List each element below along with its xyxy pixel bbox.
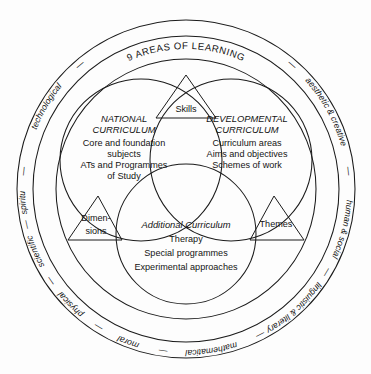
ring-area-scientific: scientific: [24, 234, 46, 270]
developmental-curriculum-line-2: Aims and objectives: [207, 149, 288, 159]
national-curriculum-line-4: of Study: [107, 171, 141, 181]
additional-curriculum-line-2: Special programmes: [144, 248, 228, 258]
dimensions-label-line2: sions: [85, 226, 107, 236]
national-curriculum-line-2: subjects: [107, 149, 141, 159]
developmental-curriculum-text: DEVELOPMENTAL CURRICULUM Curriculum area…: [206, 113, 288, 170]
additional-curriculum-line-3: Experimental approaches: [134, 262, 238, 272]
ring-area-physical: physical: [55, 289, 86, 320]
ring-inner-circle: [33, 36, 339, 342]
developmental-curriculum-line-1: Curriculum areas: [212, 138, 282, 148]
themes-label: Themes: [260, 219, 293, 229]
ring-area-mathematical: mathematical: [184, 340, 238, 358]
ring-dash-3: —: [18, 166, 29, 176]
ring-dash-6: —: [254, 329, 267, 342]
ring-area-linguistic-literary: linguistic & literary: [264, 281, 324, 336]
ring-title-textpath: 9 AREAS OF LEARNING: [125, 40, 247, 63]
additional-curriculum-title: Additional Curriculum: [140, 219, 230, 230]
ring-dash-4: —: [344, 166, 355, 176]
national-curriculum-title-line2: CURRICULUM: [92, 124, 155, 135]
curriculum-venn-diagram: 9 AREAS OF LEARNING — technological — ae…: [0, 0, 371, 374]
additional-curriculum-line-1: Therapy: [169, 234, 203, 244]
ring-title-text: 9 AREAS OF LEARNING: [125, 40, 247, 63]
ring-dash-9: —: [44, 275, 57, 288]
developmental-curriculum-title-line2: CURRICULUM: [215, 124, 278, 135]
developmental-curriculum-title-line1: DEVELOPMENTAL: [206, 113, 288, 124]
ring-dash-10: —: [20, 219, 32, 230]
ring-dash-2: —: [286, 58, 299, 71]
diagram-canvas: 9 AREAS OF LEARNING — technological — ae…: [0, 0, 371, 374]
skills-label: Skills: [175, 104, 197, 114]
enclosing-circle: [56, 59, 316, 319]
themes-triangle: [250, 196, 304, 240]
ring-area-spiritual: spiritual: [0, 0, 29, 215]
ring-dash-5: —: [321, 266, 334, 279]
national-curriculum-title-line1: NATIONAL: [101, 113, 147, 124]
ring-area-aesthetic-creative: aesthetic & creative: [304, 75, 350, 147]
ring-area-labels-bottom: human & social — linguistic & literary —…: [0, 0, 355, 358]
ring-area-moral: moral: [115, 333, 140, 351]
national-curriculum-line-3: ATs and Programmes: [81, 160, 168, 170]
ring-area-technological: technological: [29, 80, 64, 130]
dimensions-label-line1: Dimen-: [81, 213, 110, 223]
additional-curriculum-text: Additional Curriculum Therapy Special pr…: [134, 219, 238, 272]
ring-dash-8: —: [92, 321, 105, 334]
ring-dash-1: —: [73, 57, 86, 70]
developmental-curriculum-line-3: Schemes of work: [212, 160, 282, 170]
national-curriculum-line-1: Core and foundation: [83, 138, 165, 148]
ring-dash-7: —: [158, 346, 168, 357]
